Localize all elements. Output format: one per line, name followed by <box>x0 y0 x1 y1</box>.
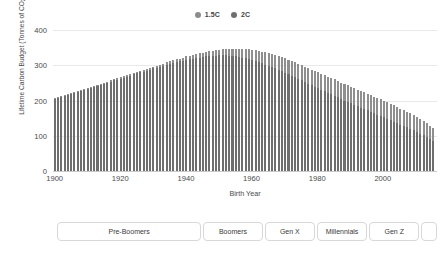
bar-group[interactable] <box>347 23 349 171</box>
bar-group[interactable] <box>96 23 98 171</box>
bar-group[interactable] <box>281 23 283 171</box>
bar-group[interactable] <box>202 23 204 171</box>
bar-group[interactable] <box>304 23 306 171</box>
bar-group[interactable] <box>406 23 408 171</box>
bar-group[interactable] <box>70 23 72 171</box>
generation-segment-pre-boomers[interactable]: Pre-Boomers <box>57 222 201 241</box>
bar-group[interactable] <box>159 23 161 171</box>
bar-group[interactable] <box>231 23 233 171</box>
bar-group[interactable] <box>162 23 164 171</box>
generation-segment-boomers[interactable]: Boomers <box>203 222 263 241</box>
bar-group[interactable] <box>251 23 253 171</box>
bar-group[interactable] <box>93 23 95 171</box>
bar-group[interactable] <box>129 23 131 171</box>
bar-group[interactable] <box>77 23 79 171</box>
bar-group[interactable] <box>212 23 214 171</box>
bar-group[interactable] <box>271 23 273 171</box>
bar-group[interactable] <box>334 23 336 171</box>
bar-group[interactable] <box>393 23 395 171</box>
bar-group[interactable] <box>192 23 194 171</box>
generation-segment-gen-z[interactable]: Gen Z <box>369 222 419 241</box>
bar-group[interactable] <box>268 23 270 171</box>
generation-segment-gen-x[interactable]: Gen X <box>265 222 315 241</box>
bar-group[interactable] <box>357 23 359 171</box>
bar-group[interactable] <box>222 23 224 171</box>
bar-group[interactable] <box>399 23 401 171</box>
bar-group[interactable] <box>396 23 398 171</box>
bar-group[interactable] <box>413 23 415 171</box>
bar-group[interactable] <box>248 23 250 171</box>
bar-group[interactable] <box>176 23 178 171</box>
bar-group[interactable] <box>255 23 257 171</box>
bar-group[interactable] <box>169 23 171 171</box>
bar-group[interactable] <box>423 23 425 171</box>
bar-group[interactable] <box>340 23 342 171</box>
bar-group[interactable] <box>343 23 345 171</box>
bar-group[interactable] <box>317 23 319 171</box>
bar-group[interactable] <box>179 23 181 171</box>
bar-group[interactable] <box>136 23 138 171</box>
bar-group[interactable] <box>60 23 62 171</box>
bar-group[interactable] <box>284 23 286 171</box>
bar-group[interactable] <box>83 23 85 171</box>
bar-group[interactable] <box>228 23 230 171</box>
bar-group[interactable] <box>383 23 385 171</box>
bar-group[interactable] <box>205 23 207 171</box>
bar-group[interactable] <box>90 23 92 171</box>
bar-group[interactable] <box>264 23 266 171</box>
bar-group[interactable] <box>110 23 112 171</box>
bar-group[interactable] <box>106 23 108 171</box>
bar-group[interactable] <box>353 23 355 171</box>
bar-group[interactable] <box>241 23 243 171</box>
bar-group[interactable] <box>116 23 118 171</box>
bar-group[interactable] <box>330 23 332 171</box>
bar-group[interactable] <box>172 23 174 171</box>
bar-group[interactable] <box>80 23 82 171</box>
bar-group[interactable] <box>120 23 122 171</box>
bar-group[interactable] <box>100 23 102 171</box>
bar-group[interactable] <box>432 23 434 171</box>
bar-group[interactable] <box>291 23 293 171</box>
bar-group[interactable] <box>403 23 405 171</box>
bar-group[interactable] <box>156 23 158 171</box>
generation-segment-empty[interactable] <box>421 222 437 241</box>
bar-group[interactable] <box>426 23 428 171</box>
bar-group[interactable] <box>380 23 382 171</box>
bar-group[interactable] <box>123 23 125 171</box>
bar-group[interactable] <box>258 23 260 171</box>
bar-group[interactable] <box>218 23 220 171</box>
bar-group[interactable] <box>311 23 313 171</box>
bar-group[interactable] <box>429 23 431 171</box>
bar-group[interactable] <box>287 23 289 171</box>
bar-group[interactable] <box>261 23 263 171</box>
bar-group[interactable] <box>146 23 148 171</box>
bar-group[interactable] <box>370 23 372 171</box>
bar-group[interactable] <box>199 23 201 171</box>
bar-group[interactable] <box>390 23 392 171</box>
bar-group[interactable] <box>238 23 240 171</box>
bar-group[interactable] <box>416 23 418 171</box>
bar-group[interactable] <box>103 23 105 171</box>
bar-group[interactable] <box>182 23 184 171</box>
bar-group[interactable] <box>126 23 128 171</box>
bar-group[interactable] <box>274 23 276 171</box>
bar-group[interactable] <box>337 23 339 171</box>
bar-group[interactable] <box>195 23 197 171</box>
bar-group[interactable] <box>133 23 135 171</box>
bar-group[interactable] <box>324 23 326 171</box>
bar-group[interactable] <box>189 23 191 171</box>
bar-group[interactable] <box>373 23 375 171</box>
bar-group[interactable] <box>64 23 66 171</box>
bar-group[interactable] <box>360 23 362 171</box>
bar-group[interactable] <box>235 23 237 171</box>
bar-group[interactable] <box>54 23 56 171</box>
bar-group[interactable] <box>367 23 369 171</box>
bar-group[interactable] <box>314 23 316 171</box>
bar-group[interactable] <box>215 23 217 171</box>
bar-group[interactable] <box>350 23 352 171</box>
bar-group[interactable] <box>225 23 227 171</box>
generation-segment-millennials[interactable]: Millennials <box>317 222 367 241</box>
bar-group[interactable] <box>409 23 411 171</box>
bar-group[interactable] <box>87 23 89 171</box>
bar-group[interactable] <box>327 23 329 171</box>
